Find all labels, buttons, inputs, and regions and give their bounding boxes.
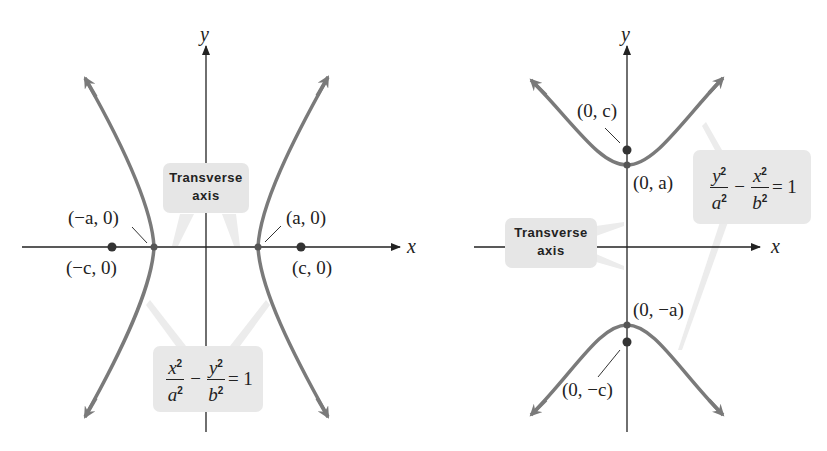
exponent: 2: [217, 358, 223, 369]
arrow-top-right-icon: [317, 77, 328, 96]
pos-focus-point-right: [623, 146, 632, 155]
pos-vertex-point-right: [624, 162, 631, 169]
equation-rhs: = 1: [772, 176, 797, 198]
x-axis-label-right: x: [771, 236, 780, 256]
transverse-axis-callout: Transverse axis: [163, 163, 249, 213]
term1-denominator: a: [712, 192, 722, 213]
equation-leader-right: [230, 300, 270, 346]
callout-leader-left: [172, 214, 194, 246]
neg-vertex-label-right: (0, −a): [633, 300, 684, 319]
exponent: 2: [721, 193, 727, 204]
term1-denominator: a: [168, 384, 178, 405]
arrow-top-left-icon: [85, 78, 96, 97]
neg-focus-point: [108, 243, 117, 252]
x-axis-label: x: [407, 236, 416, 256]
neg-focus-label-right: (0, −c): [562, 380, 613, 399]
exponent: 2: [218, 385, 224, 396]
term1-fraction: x2 a2: [166, 354, 184, 405]
callout-leader-up: [596, 222, 624, 236]
minus-operator: −: [734, 176, 745, 198]
neg-vertex-pointer: [132, 227, 147, 243]
arrow-bottom-left-icon: [85, 398, 96, 417]
exponent: 2: [177, 385, 183, 396]
term1-fraction: y2 a2: [710, 162, 728, 213]
callout-line-1: Transverse: [505, 224, 597, 242]
callout-line-1: Transverse: [163, 169, 249, 187]
pos-vertex-label-right: (0, a): [633, 173, 673, 192]
term1-numerator: y: [712, 165, 720, 186]
term1-numerator: x: [168, 357, 176, 378]
term2-denominator: b: [208, 384, 218, 405]
equation-box-horizontal: x2 a2 − y2 b2 = 1: [153, 346, 263, 412]
y-axis-label-right: y: [621, 24, 630, 44]
exponent: 2: [762, 193, 768, 204]
arrow-bottom-right-icon: [317, 398, 328, 417]
neg-vertex-point-right: [624, 322, 631, 329]
pos-focus-label-right: (0, c): [577, 101, 617, 120]
neg-vertex-point: [151, 244, 158, 251]
equation-rhs: = 1: [228, 368, 253, 390]
term2-fraction: x2 b2: [751, 162, 769, 213]
exponent: 2: [721, 166, 727, 177]
minus-operator: −: [190, 368, 201, 390]
term2-fraction: y2 b2: [207, 354, 225, 405]
exponent: 2: [177, 358, 183, 369]
y-axis-label: y: [200, 24, 209, 44]
pos-focus-label: (c, 0): [292, 258, 332, 277]
equation-leader-left: [146, 300, 186, 346]
transverse-axis-callout-right: Transverse axis: [505, 218, 597, 268]
term2-denominator: b: [752, 192, 762, 213]
callout-line-2: axis: [163, 187, 249, 205]
neg-focus-pointer: [598, 350, 620, 377]
callout-leader-down: [596, 254, 624, 270]
pos-vertex-point: [255, 244, 262, 251]
equation-leader-down: [678, 222, 728, 350]
neg-focus-point-right: [623, 338, 632, 347]
pos-vertex-label: (a, 0): [286, 208, 326, 227]
callout-leader-right: [222, 214, 240, 246]
neg-vertex-label: (−a, 0): [68, 208, 119, 227]
arrow-lower-right-icon: [709, 400, 723, 415]
equation-box-vertical: y2 a2 − x2 b2 = 1: [693, 150, 811, 224]
arrow-lower-left-icon: [531, 400, 546, 415]
pos-focus-pointer: [605, 128, 620, 143]
neg-focus-label: (−c, 0): [66, 258, 117, 277]
equation-leader-up: [702, 122, 722, 152]
callout-line-2: axis: [505, 242, 597, 260]
arrow-upper-right-icon: [709, 78, 723, 93]
exponent: 2: [761, 166, 767, 177]
arrow-upper-left-icon: [531, 80, 546, 95]
pos-focus-point: [297, 243, 306, 252]
hyperbola-diagram: [0, 0, 827, 451]
pos-vertex-pointer: [265, 226, 281, 242]
